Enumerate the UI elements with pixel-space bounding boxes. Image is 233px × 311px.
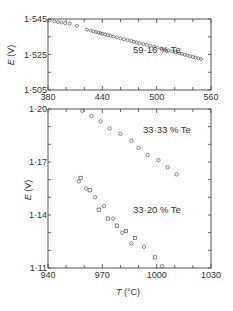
data-point xyxy=(108,127,111,130)
svg-text:440: 440 xyxy=(95,92,110,102)
data-point xyxy=(175,173,178,176)
data-point xyxy=(157,159,160,162)
data-point xyxy=(106,217,109,220)
bottom-y-axis-label: E (V) xyxy=(23,180,33,201)
data-point xyxy=(119,37,122,40)
data-point xyxy=(126,39,129,42)
data-point xyxy=(166,166,169,169)
top-annotation: 59·16 % Te xyxy=(133,44,181,55)
svg-text:1·545: 1·545 xyxy=(24,14,47,24)
svg-text:1·11: 1·11 xyxy=(30,263,47,273)
data-point xyxy=(153,256,156,259)
top-y-axis-label: E (V) xyxy=(6,45,16,66)
data-point xyxy=(79,176,82,179)
data-point xyxy=(102,204,105,207)
bottom-annotation-33-20: 33·20 % Te xyxy=(133,204,181,215)
svg-text:1·525: 1·525 xyxy=(24,50,47,60)
svg-text:1·505: 1·505 xyxy=(24,85,47,95)
svg-text:1030: 1030 xyxy=(201,270,221,280)
data-point xyxy=(60,21,63,24)
data-point xyxy=(146,153,149,156)
data-point xyxy=(142,245,145,248)
data-point xyxy=(137,146,140,149)
svg-text:1·14: 1·14 xyxy=(29,210,47,220)
svg-text:1·20: 1·20 xyxy=(29,104,47,114)
svg-text:970: 970 xyxy=(95,270,110,280)
data-point xyxy=(133,236,136,239)
data-point xyxy=(64,22,67,25)
data-point xyxy=(99,120,102,123)
data-point xyxy=(68,22,71,25)
top-tick-labels: 3804405005601·5051·5251·545 xyxy=(24,14,219,102)
data-point xyxy=(77,180,80,183)
bottom-tick-labels: 940970100010301·111·141·171·20 xyxy=(29,104,221,280)
bottom-series-33-20-te xyxy=(77,176,164,268)
data-point xyxy=(88,189,91,192)
data-point xyxy=(112,217,115,220)
data-point xyxy=(119,132,122,135)
data-point xyxy=(53,20,56,23)
data-point xyxy=(130,139,133,142)
svg-text:560: 560 xyxy=(203,92,218,102)
svg-text:1000: 1000 xyxy=(147,270,167,280)
data-point xyxy=(85,28,88,31)
data-point xyxy=(93,196,96,199)
data-point xyxy=(90,114,93,117)
x-axis-label: T (°C) xyxy=(116,287,140,297)
svg-text:1·17: 1·17 xyxy=(29,157,47,167)
data-point xyxy=(130,242,133,245)
data-point xyxy=(121,231,124,234)
data-point xyxy=(56,21,59,24)
svg-text:500: 500 xyxy=(149,92,164,102)
bottom-series-33-33-te xyxy=(81,109,179,176)
data-point xyxy=(123,38,126,41)
figure: 3804405005601·5051·5251·545 59·16 % Te E… xyxy=(0,0,233,311)
data-point xyxy=(75,24,78,27)
data-point xyxy=(115,224,118,227)
data-point xyxy=(115,36,118,39)
data-point xyxy=(124,229,127,232)
data-point xyxy=(84,187,87,190)
data-point xyxy=(81,109,84,112)
data-point xyxy=(160,265,163,268)
data-point xyxy=(97,208,100,211)
bottom-annotation-33-33: 33·33 % Te xyxy=(143,124,191,135)
